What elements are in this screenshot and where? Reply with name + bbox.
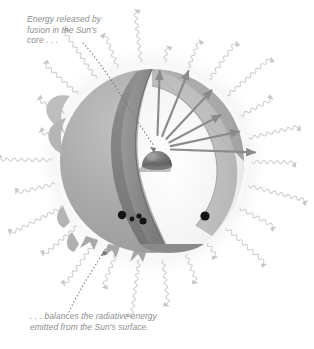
sun-diagram: [0, 0, 314, 349]
sunspot: [200, 211, 209, 220]
sunspot: [118, 211, 126, 219]
annotation-bottom: . . . balances the radiative energy emit…: [30, 311, 200, 332]
annotation-top: Energy released by fusion in the Sun's c…: [27, 14, 147, 46]
figure-canvas: Energy released by fusion in the Sun's c…: [0, 0, 314, 349]
sunspot: [139, 217, 146, 224]
sunspot: [130, 217, 135, 222]
sunspot: [136, 213, 141, 218]
